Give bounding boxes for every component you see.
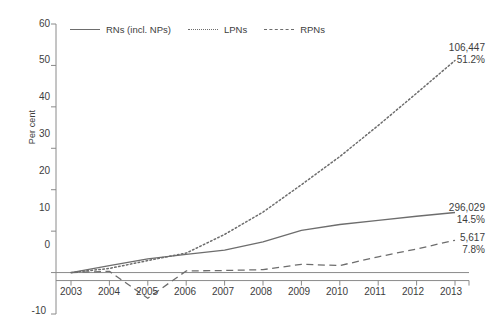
legend-label-rpns: RPNs (300, 24, 325, 35)
legend-line-dotted-icon (188, 29, 218, 30)
y-tick-label-0: 0 (22, 240, 50, 250)
annotation-rns: 296,029 14.5% (380, 202, 485, 226)
annotation-lpns-percent: 51.2% (380, 54, 485, 66)
x-tick-label-2004: 2004 (89, 287, 129, 297)
y-tick-label-60: 60 (22, 19, 50, 29)
y-tick-label-20: 20 (22, 166, 50, 176)
x-tick-label-2008: 2008 (241, 287, 281, 297)
annotation-rpns: 5,617 7.8% (380, 232, 485, 256)
legend-line-dashed-icon (264, 29, 294, 30)
legend-item-rns: RNs (incl. NPs) (70, 24, 171, 35)
chart-legend: RNs (incl. NPs) LPNs RPNs (70, 24, 325, 35)
legend-label-lpns: LPNs (224, 24, 247, 35)
x-tick-label-2005: 2005 (127, 287, 167, 297)
x-tick-label-2009: 2009 (279, 287, 319, 297)
annotation-rpns-value: 5,617 (380, 232, 485, 244)
annotation-rns-value: 296,029 (380, 202, 485, 214)
y-axis-title: Per cent (27, 97, 37, 157)
y-tick-label-neg10: -10 (18, 306, 46, 316)
legend-item-rpns: RPNs (264, 24, 325, 35)
annotation-lpns: 106,447 51.2% (380, 42, 485, 66)
x-tick-label-2013: 2013 (431, 287, 471, 297)
x-tick-label-2011: 2011 (355, 287, 395, 297)
annotation-rpns-percent: 7.8% (380, 244, 485, 256)
line-chart: Per cent 60 50 40 30 20 10 0 -10 2003 20… (0, 0, 499, 333)
y-tick-label-40: 40 (22, 92, 50, 102)
x-tick-label-2007: 2007 (203, 287, 243, 297)
legend-item-lpns: LPNs (188, 24, 247, 35)
y-tick-label-30: 30 (22, 129, 50, 139)
annotation-rns-percent: 14.5% (380, 214, 485, 226)
y-tick-label-50: 50 (22, 55, 50, 65)
axes-group (51, 24, 469, 314)
legend-line-solid-icon (70, 29, 100, 30)
x-tick-label-2010: 2010 (317, 287, 357, 297)
x-tick-label-2006: 2006 (165, 287, 205, 297)
legend-label-rns: RNs (incl. NPs) (106, 24, 171, 35)
x-tick-label-2012: 2012 (393, 287, 433, 297)
annotation-lpns-value: 106,447 (380, 42, 485, 54)
x-tick-label-2003: 2003 (51, 287, 91, 297)
series-group (71, 60, 455, 298)
y-tick-label-10: 10 (22, 203, 50, 213)
